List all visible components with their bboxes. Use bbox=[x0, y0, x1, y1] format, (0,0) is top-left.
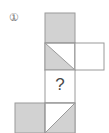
cell-top-center-fill bbox=[45, 13, 75, 43]
cell-top-center bbox=[45, 13, 75, 43]
figure-shapes bbox=[0, 0, 109, 133]
cell-bottom-left-fill bbox=[15, 103, 45, 133]
cell-bottom-center bbox=[45, 103, 75, 133]
cell-middle-right-fill bbox=[75, 43, 104, 70]
puzzle-figure: ① ? bbox=[0, 0, 109, 133]
cell-bottom-left bbox=[15, 103, 45, 133]
cell-middle-center bbox=[45, 43, 75, 70]
cell-middle-right bbox=[75, 43, 104, 70]
question-mark-label: ? bbox=[45, 70, 75, 100]
